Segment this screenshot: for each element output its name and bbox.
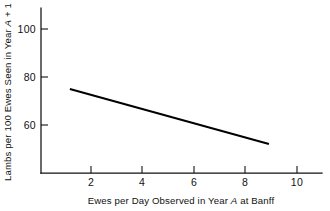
y-tick-label-60: 60 [24,119,36,131]
y-axis-title-before: Lambs per 100 Ewes Seen in Year [2,26,13,181]
x-tick-label-2: 2 [88,176,94,188]
x-tick-label-8: 8 [242,176,248,188]
x-tick-label-6: 6 [191,176,197,188]
y-axis-title: Lambs per 100 Ewes Seen in Year A + 1 [2,3,13,181]
x-axis-title-before: Ewes per Day Observed in Year [88,195,231,206]
y-axis-title-variable: A [2,20,13,28]
x-tick-label-10: 10 [291,176,303,188]
y-tick-label-80: 80 [24,71,36,83]
chart-plot-area: 100 80 60 2 4 6 8 10 Ewes per Day Observ… [0,0,330,211]
x-tick-label-4: 4 [139,176,145,188]
chart-figure: 100 80 60 2 4 6 8 10 Ewes per Day Observ… [0,0,330,211]
x-axis-title-after: at Banff [237,195,274,206]
x-axis-title-variable: A [230,195,238,206]
y-tick-label-100: 100 [18,23,36,35]
data-series-line [70,89,269,144]
x-axis-title: Ewes per Day Observed in Year A at Banff [88,195,275,206]
y-axis-title-after: + 1 [2,3,13,20]
